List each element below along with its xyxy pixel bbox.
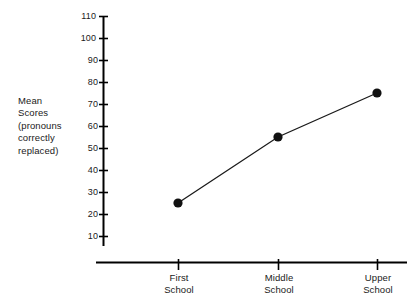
plot-area	[0, 0, 418, 307]
data-point-first-school	[173, 198, 182, 207]
x-tick-label-middle-school-line-2: School	[239, 284, 319, 296]
x-tick-label-first-school: First School	[139, 272, 219, 297]
x-tick-label-upper-school-line-2: School	[338, 284, 418, 296]
x-axis-ticks	[179, 259, 378, 270]
data-point-upper-school	[372, 88, 381, 97]
x-tick-label-first-school-line-1: First	[139, 272, 219, 284]
data-line-mean-scores	[178, 93, 377, 203]
line-chart: Mean Scores (pronouns correctly replaced…	[0, 0, 418, 307]
x-tick-label-first-school-line-2: School	[139, 284, 219, 296]
x-tick-label-middle-school: Middle School	[239, 272, 319, 297]
data-point-middle-school	[273, 132, 282, 141]
x-tick-label-middle-school-line-1: Middle	[239, 272, 319, 284]
x-tick-label-upper-school-line-1: Upper	[338, 272, 418, 284]
x-tick-label-upper-school: Upper School	[338, 272, 418, 297]
